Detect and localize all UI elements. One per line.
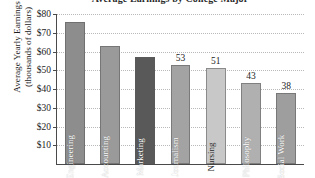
bar-value-label: 43 — [246, 71, 256, 81]
y-axis-tick-label: $10 — [37, 140, 51, 150]
y-axis-title-line-2: (thousands of dollars) — [23, 0, 34, 117]
bar[interactable]: Marketing — [135, 57, 155, 164]
bar-category-label: Nursing — [206, 143, 216, 172]
y-axis-tick-label: $50 — [37, 65, 51, 75]
bar-category-label: Marketing — [135, 138, 145, 176]
bar-slot: Nursing51 — [198, 14, 233, 164]
bar-chart: Average Earnings by College Major Averag… — [0, 0, 315, 178]
bar[interactable]: Journalism — [171, 65, 191, 164]
bar-category-label: Engineering — [65, 135, 75, 178]
bar-slot: Journalism53 — [163, 14, 198, 164]
bar-category-label: Journalism — [170, 137, 180, 177]
y-axis-tick-label: $80 — [37, 9, 51, 19]
chart-title: Average Earnings by College Major — [40, 0, 300, 4]
bar-category-label: Social Work — [276, 135, 286, 178]
bar-slot: Marketing — [128, 14, 163, 164]
bar-series: EngineeringAccountingMarketingJournalism… — [57, 14, 304, 164]
y-axis-title: Average Yearly Earnings (thousands of do… — [12, 0, 34, 117]
bar-slot: Social Work38 — [269, 14, 304, 164]
y-axis-tick-label: $70 — [37, 28, 51, 38]
y-axis-title-line-1: Average Yearly Earnings — [12, 0, 23, 117]
bar-category-label: Philosophy — [241, 137, 251, 178]
bar[interactable]: Philosophy — [241, 83, 261, 164]
bar[interactable]: Accounting — [100, 46, 120, 164]
bar-category-label: Accounting — [100, 136, 110, 178]
bar-value-label: 51 — [211, 56, 221, 66]
bar[interactable]: Social Work — [276, 93, 296, 164]
y-axis-tick-label: $60 — [37, 47, 51, 57]
y-axis-tick-label: $20 — [37, 122, 51, 132]
bar[interactable]: Engineering — [65, 22, 85, 165]
bar-value-label: 38 — [282, 81, 292, 91]
bar-slot: Philosophy43 — [233, 14, 268, 164]
bar-slot: Engineering — [57, 14, 92, 164]
bar-value-label: 53 — [176, 53, 186, 63]
bar[interactable]: Nursing — [206, 68, 226, 164]
y-axis-tick-label: $30 — [37, 103, 51, 113]
plot-area: $10$20$30$40$50$60$70$80 EngineeringAcco… — [56, 14, 304, 165]
y-axis-tick-label: $40 — [37, 84, 51, 94]
bar-slot: Accounting — [92, 14, 127, 164]
